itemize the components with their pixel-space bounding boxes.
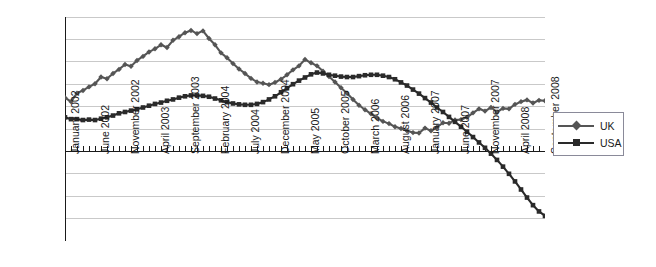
legend-label-uk: UK: [600, 119, 615, 133]
data-point: [483, 146, 488, 151]
data-point: [135, 107, 140, 112]
data-point: [183, 94, 188, 99]
data-point: [123, 110, 128, 115]
data-point: [471, 135, 476, 140]
data-point: [213, 96, 218, 101]
data-point: [249, 103, 254, 108]
data-point: [327, 72, 332, 77]
data-point: [387, 75, 392, 80]
data-point: [537, 209, 542, 214]
data-point: [405, 83, 410, 88]
data-point: [513, 179, 518, 184]
data-point: [141, 105, 146, 110]
data-point: [303, 75, 308, 80]
data-point: [177, 95, 182, 100]
chart-figure: 30.0%25.0%20.0%15.0%10.0%5.0%0.0%-5.0%-1…: [0, 0, 656, 267]
data-point: [171, 97, 176, 102]
data-point: [477, 140, 482, 145]
data-point: [501, 164, 506, 169]
data-point: [339, 74, 344, 79]
data-point: [291, 82, 296, 87]
data-point: [65, 115, 67, 120]
data-point: [393, 77, 398, 82]
data-point: [507, 172, 512, 177]
data-point: [243, 103, 248, 108]
data-point: [459, 124, 464, 129]
data-point: [435, 105, 440, 110]
legend-item-usa: USA: [558, 136, 622, 150]
data-point: [219, 98, 224, 103]
data-point: [69, 117, 74, 122]
data-point: [231, 101, 236, 106]
data-point: [399, 80, 404, 85]
data-point: [279, 90, 284, 95]
data-point: [453, 120, 458, 125]
data-point: [333, 73, 338, 78]
data-point: [519, 187, 524, 192]
data-point: [309, 72, 314, 77]
data-point: [297, 78, 302, 83]
data-point: [381, 73, 386, 78]
data-point: [321, 71, 326, 76]
data-point: [111, 113, 116, 118]
data-point: [153, 102, 158, 107]
data-point: [147, 103, 152, 108]
data-point: [207, 94, 212, 99]
data-point: [75, 117, 80, 122]
data-point: [345, 75, 350, 80]
data-point: [93, 118, 98, 123]
data-point: [489, 151, 494, 156]
data-point: [87, 117, 92, 122]
legend-marker-square-icon: [573, 139, 580, 146]
data-point: [260, 81, 265, 86]
legend-label-usa: USA: [600, 136, 622, 150]
data-point: [117, 111, 122, 116]
data-point: [429, 100, 434, 105]
data-point: [273, 94, 278, 99]
data-point: [543, 214, 545, 219]
data-point: [423, 96, 428, 101]
data-point: [542, 98, 545, 103]
data-point: [189, 93, 194, 98]
data-point: [225, 100, 230, 105]
data-point: [410, 130, 415, 135]
data-point: [417, 91, 422, 96]
data-point: [267, 97, 272, 102]
data-point: [357, 74, 362, 79]
data-point: [351, 75, 356, 80]
data-point: [255, 102, 260, 107]
data-point: [458, 117, 463, 122]
data-point: [159, 100, 164, 105]
chart-canvas: [65, 17, 545, 241]
data-point: [441, 110, 446, 115]
data-point: [411, 87, 416, 92]
data-point: [201, 94, 206, 99]
y-axis-tick-labels: 30.0%25.0%20.0%15.0%10.0%5.0%0.0%-5.0%-1…: [0, 0, 62, 267]
legend-item-uk: UK: [558, 119, 622, 133]
data-point: [195, 93, 200, 98]
data-point: [447, 115, 452, 120]
data-point: [531, 203, 536, 208]
data-point: [375, 72, 380, 77]
data-point: [165, 98, 170, 103]
data-point: [237, 102, 242, 107]
data-point: [363, 73, 368, 78]
data-point: [105, 115, 110, 120]
legend-marker-diamond-icon: [571, 120, 581, 130]
data-point: [129, 108, 134, 113]
data-point: [495, 158, 500, 163]
data-point: [525, 195, 530, 200]
series-line-uk: [65, 30, 545, 133]
chart-legend: UK USA: [553, 112, 624, 156]
series-line-usa: [65, 73, 545, 216]
data-point: [465, 129, 470, 134]
data-point: [81, 118, 86, 123]
data-point: [369, 72, 374, 77]
data-point: [261, 100, 266, 105]
data-point: [285, 86, 290, 91]
data-point: [266, 82, 271, 87]
data-point: [398, 126, 403, 131]
plot-area: [65, 17, 545, 241]
data-point: [315, 70, 320, 75]
data-point: [99, 116, 104, 121]
